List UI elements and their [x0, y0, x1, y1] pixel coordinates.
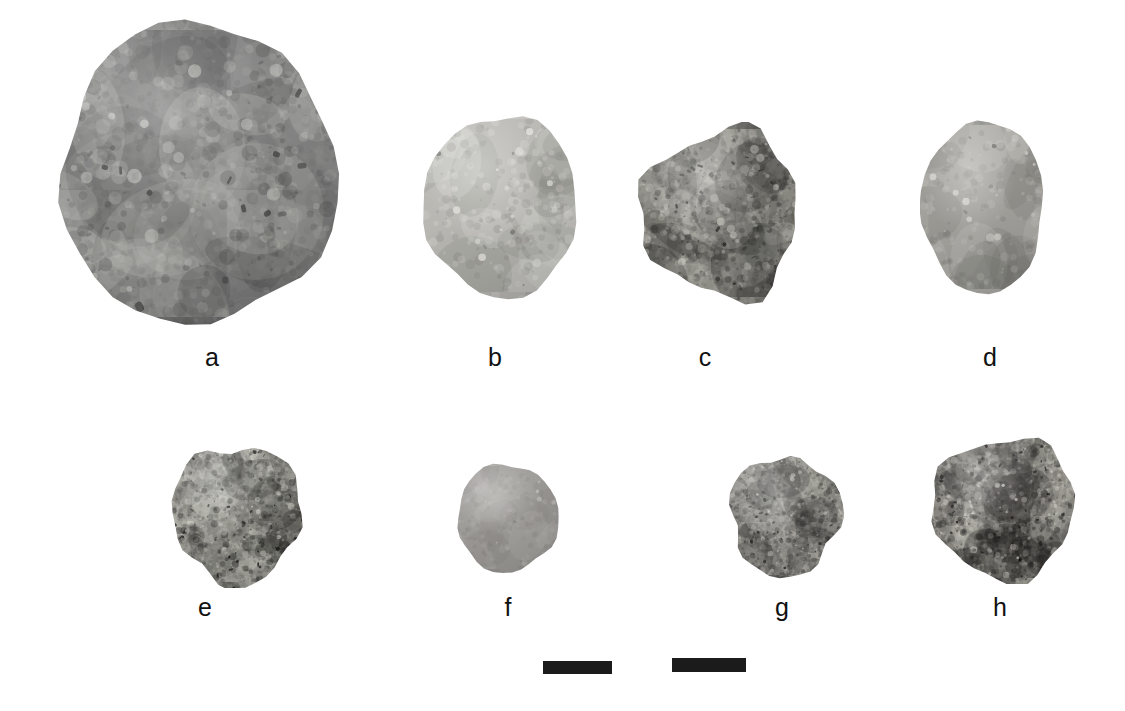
specimen-image-e: [168, 440, 306, 588]
specimen-image-f: [455, 462, 560, 574]
specimen-label-f: f: [478, 595, 538, 620]
specimen-image-c: [635, 122, 807, 305]
specimen-label-b: b: [465, 345, 525, 370]
specimen-image-g: [726, 452, 844, 580]
specimen-label-g: g: [752, 595, 812, 620]
specimen-image-d: [920, 118, 1046, 296]
scale-bar-left: [543, 661, 612, 674]
specimen-h: [928, 432, 1080, 584]
specimen-label-e: e: [175, 595, 235, 620]
specimen-c: [635, 122, 807, 305]
specimen-g: [726, 452, 844, 580]
scale-bar-right: [672, 658, 746, 672]
specimen-f: [455, 462, 560, 574]
specimen-label-d: d: [960, 345, 1020, 370]
specimen-image-a: [55, 18, 341, 330]
figure-plate: abcdefgh: [0, 0, 1125, 711]
specimen-label-h: h: [970, 595, 1030, 620]
specimen-a: [55, 18, 341, 330]
specimen-image-b: [421, 112, 581, 300]
specimen-e: [168, 440, 306, 588]
specimen-label-c: c: [675, 345, 735, 370]
specimen-b: [421, 112, 581, 300]
specimen-label-a: a: [182, 345, 242, 370]
specimen-d: [920, 118, 1046, 296]
specimen-image-h: [928, 432, 1080, 584]
